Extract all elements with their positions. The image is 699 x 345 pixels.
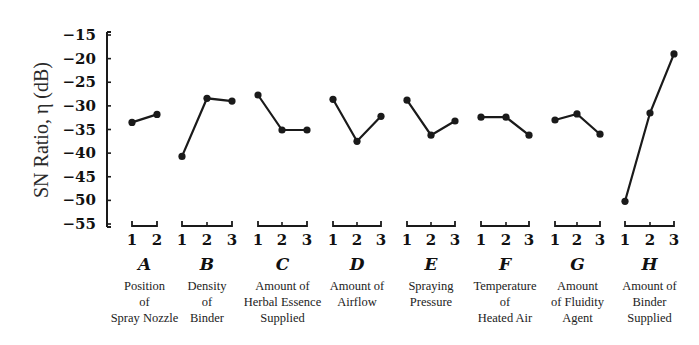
y-tick-label: −15 <box>63 26 96 44</box>
plot-area <box>128 50 677 205</box>
factor-description-line: Position <box>124 279 166 293</box>
factor-description-line: Amount of <box>330 279 385 293</box>
level-label: 1 <box>127 231 137 249</box>
data-point <box>254 91 261 98</box>
data-point <box>178 153 185 160</box>
factor-letter: D <box>349 254 365 274</box>
level-label: 3 <box>376 231 386 249</box>
y-tick-label: −30 <box>63 97 96 115</box>
effect-line <box>132 114 157 122</box>
level-label: 1 <box>620 231 630 249</box>
data-point <box>153 111 160 118</box>
factor-description-line: of <box>500 295 511 309</box>
factor-description-line: Spraying <box>408 279 454 293</box>
factor-description-line: of <box>139 295 150 309</box>
data-point <box>621 198 628 205</box>
factor-letter: H <box>640 254 658 274</box>
series-factor-h <box>621 50 677 205</box>
effect-line <box>625 54 674 201</box>
y-tick-label: −55 <box>63 215 96 233</box>
y-tick-label: −40 <box>63 144 96 162</box>
factor-description-line: Airflow <box>337 295 377 309</box>
data-point <box>303 126 310 133</box>
data-point <box>451 117 458 124</box>
data-point <box>670 50 677 57</box>
factor-group-h: 123HAmount ofBinderSupplied <box>620 221 679 325</box>
factor-letter: E <box>424 254 439 274</box>
data-point <box>551 116 558 123</box>
y-tick-label: −25 <box>63 73 96 91</box>
factor-group-g: 123GAmountof FluidityAgent <box>550 221 605 325</box>
y-tick-label: −20 <box>63 50 96 68</box>
factor-group-c: 123CAmount ofHerbal EssenceSupplied <box>244 221 322 325</box>
factor-letter: G <box>570 254 585 274</box>
data-point <box>353 138 360 145</box>
level-label: 2 <box>501 231 511 249</box>
factor-letter: A <box>136 254 151 274</box>
data-point <box>203 95 210 102</box>
factor-description-line: Amount of <box>255 279 310 293</box>
factor-letter: F <box>498 254 513 274</box>
factor-group-d: 123DAmount ofAirflow <box>328 221 386 309</box>
level-label: 3 <box>227 231 237 249</box>
level-label: 3 <box>302 231 312 249</box>
factor-description-line: Pressure <box>410 295 453 309</box>
data-point <box>228 98 235 105</box>
data-point <box>502 114 509 121</box>
series-factor-e <box>403 97 458 139</box>
level-label: 3 <box>669 231 679 249</box>
level-label: 2 <box>202 231 212 249</box>
level-label: 1 <box>476 231 486 249</box>
factor-description-line: of <box>202 295 213 309</box>
data-point <box>596 131 603 138</box>
level-bracket <box>132 221 157 226</box>
series-factor-b <box>178 95 235 160</box>
factor-description-line: Binder <box>632 295 667 309</box>
level-label: 3 <box>524 231 534 249</box>
factor-group-a: 12APositionofSpray Nozzle <box>111 221 179 325</box>
level-label: 3 <box>450 231 460 249</box>
data-point <box>525 132 532 139</box>
series-factor-c <box>254 91 310 133</box>
data-point <box>128 119 135 126</box>
data-point <box>427 132 434 139</box>
effect-line <box>182 98 232 156</box>
series-factor-d <box>329 96 384 145</box>
factor-description-line: Agent <box>562 311 593 325</box>
effect-line <box>258 95 307 130</box>
level-label: 2 <box>277 231 287 249</box>
factor-description-line: Heated Air <box>478 311 533 325</box>
level-bracket <box>481 221 529 226</box>
factor-description-line: Density <box>188 279 228 293</box>
data-point <box>403 97 410 104</box>
factor-group-e: 123ESprayingPressure <box>402 221 460 309</box>
level-label: 2 <box>352 231 362 249</box>
factor-description-line: of Fluidity <box>551 295 605 309</box>
factor-description-line: Binder <box>190 311 225 325</box>
sn-ratio-main-effects-chart: SN Ratio, η (dB) −15−20−25−30−35−40−45−5… <box>0 0 699 345</box>
series-factor-f <box>477 114 532 139</box>
level-label: 1 <box>550 231 560 249</box>
level-label: 3 <box>595 231 605 249</box>
level-label: 2 <box>426 231 436 249</box>
factor-description-line: Supplied <box>627 311 672 325</box>
y-axis-title: SN Ratio, η (dB) <box>30 62 53 198</box>
effect-line <box>407 100 455 135</box>
factor-description-line: Temperature <box>474 279 537 293</box>
data-point <box>377 113 384 120</box>
y-axis-title-group: SN Ratio, η (dB) <box>30 62 53 198</box>
level-label: 1 <box>402 231 412 249</box>
y-tick-label: −35 <box>63 121 96 139</box>
data-point <box>477 114 484 121</box>
level-label: 2 <box>645 231 655 249</box>
level-label: 2 <box>572 231 582 249</box>
factor-letter: B <box>199 254 214 274</box>
series-factor-a <box>128 111 160 126</box>
data-point <box>329 96 336 103</box>
factor-letter: C <box>276 254 290 274</box>
effect-line <box>333 99 381 141</box>
data-point <box>646 109 653 116</box>
factor-group-b: 123BDensityofBinder <box>177 221 237 325</box>
level-label: 2 <box>152 231 162 249</box>
level-label: 1 <box>177 231 187 249</box>
